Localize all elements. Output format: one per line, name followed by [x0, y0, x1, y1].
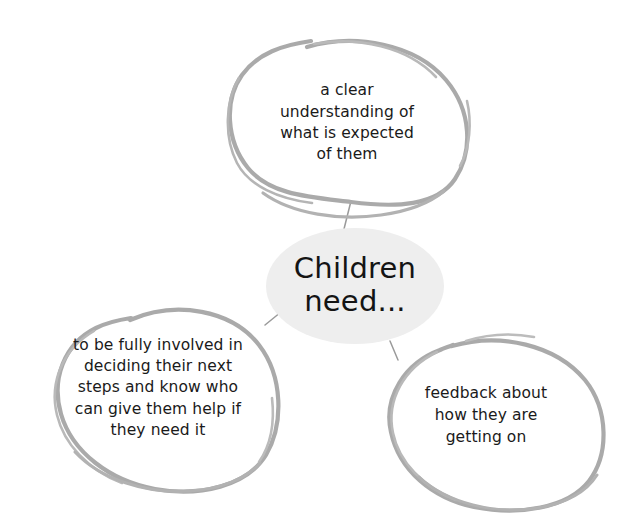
branch-node-expectations[interactable]: a clear understanding of what is expecte… [238, 42, 456, 204]
hub-node-children-need[interactable]: Children need... [266, 228, 444, 344]
branch-node-feedback[interactable]: feedback about how they are getting on [366, 338, 606, 504]
branch-label-involvement: to be fully involved in deciding their n… [73, 335, 243, 459]
branch-label-feedback: feedback about how they are getting on [425, 383, 547, 458]
branch-node-involvement[interactable]: to be fully involved in deciding their n… [42, 304, 274, 490]
branch-label-expectations: a clear understanding of what is expecte… [280, 80, 414, 166]
hub-label: Children need... [294, 252, 416, 320]
diagram-canvas: Children need... a clear understanding o… [0, 0, 636, 513]
